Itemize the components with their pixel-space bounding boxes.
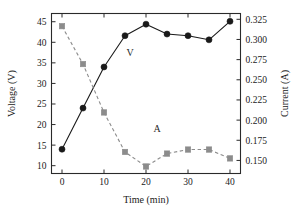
data-point-V [227,18,233,24]
y-right-axis-title: Current (A) [279,70,291,117]
data-point-A [185,147,190,152]
data-point-V [164,31,170,37]
voltage-series-annotation: V [126,47,134,58]
y-left-tick-label: 45 [37,17,47,27]
y-left-tick-label: 25 [37,99,47,109]
data-point-A [59,23,64,28]
chart-figure: 010203040 1015202530354045 0.1500.1750.2… [0,0,298,207]
data-point-V [185,33,191,39]
y-right-tick-label: 0.275 [246,55,268,65]
y-right-tick-label: 0.250 [246,75,268,85]
data-point-A [101,110,106,115]
y-left-tick-label: 10 [37,161,47,171]
data-point-A [164,151,169,156]
data-point-A [143,164,148,169]
y-left-tick-label: 20 [37,120,47,130]
y-right-tick-label: 0.300 [246,35,268,45]
data-point-V [122,33,128,39]
y-right-tick-label: 0.200 [246,116,268,126]
data-point-V [206,37,212,43]
data-point-A [80,61,85,66]
y-right-tick-label: 0.225 [246,95,268,105]
x-tick-label: 10 [99,177,109,187]
dual-axis-line-chart: 010203040 1015202530354045 0.1500.1750.2… [0,0,298,207]
y-left-tick-label: 40 [37,38,47,48]
y-left-axis-title: Voltage (V) [6,70,18,117]
x-axis-title: Time (min) [123,194,168,206]
data-point-V [59,146,65,152]
y-left-tick-label: 15 [37,141,47,151]
data-point-A [122,149,127,154]
current-series-annotation: A [153,123,161,134]
y-left-tick-label: 30 [37,79,47,89]
y-right-tick-label: 0.175 [246,136,268,146]
data-point-A [206,147,211,152]
x-tick-label: 40 [225,177,235,187]
y-left-tick-label: 35 [37,58,47,68]
data-point-V [80,105,86,111]
data-point-A [227,156,232,161]
data-point-V [101,64,107,70]
y-right-tick-label: 0.325 [246,15,268,25]
data-point-V [143,21,149,27]
x-tick-label: 0 [60,177,65,187]
x-tick-label: 20 [141,177,151,187]
x-tick-label: 30 [183,177,193,187]
y-right-tick-label: 0.150 [246,156,268,166]
